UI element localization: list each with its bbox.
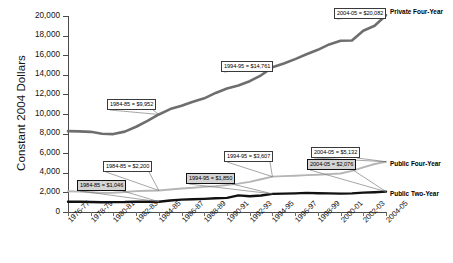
series-label-public-four-year: Public Four-Year — [390, 160, 441, 167]
leader-line — [123, 191, 159, 202]
annotation-callout: 1984-85 = $9,952 — [107, 99, 156, 110]
annotation-callout: 1994-95 = $1,850 — [186, 173, 235, 184]
annotation-callout: 2004-05 = $5,132 — [311, 147, 360, 158]
leader-line — [232, 184, 272, 194]
annotation-callout: 1994-95 = $3,607 — [224, 151, 273, 162]
annotation-callout: 1994-95 = $14,761 — [221, 61, 273, 72]
leader-line — [310, 170, 386, 192]
series-label-public-two-year: Public Two-Year — [390, 190, 439, 197]
annotation-callout: 1984-85 = $2,200 — [103, 161, 152, 172]
series-line-private-four-year — [68, 15, 386, 134]
annotation-callout: 1984-85 = $1,046 — [77, 180, 126, 191]
chart-canvas: Constant 2004 Dollars 02,0004,0006,0008,… — [0, 0, 453, 263]
leader-line — [189, 184, 272, 194]
annotation-callout: 2004-05 = $20,082 — [334, 8, 386, 19]
leader-line — [353, 170, 386, 192]
annotation-callout: 2004-05 = $2,076 — [307, 159, 356, 170]
leader-line — [110, 110, 159, 114]
leader-line — [270, 162, 272, 177]
series-label-private-four-year: Private Four-Year — [390, 8, 443, 15]
series-lines — [0, 0, 453, 263]
